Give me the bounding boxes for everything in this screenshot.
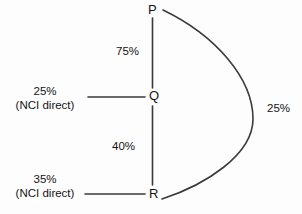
node-label-q: Q xyxy=(149,89,159,102)
inflow-label-q-percent: 25% xyxy=(12,84,78,98)
inflow-label-r-note: (NCI direct) xyxy=(12,186,78,200)
inflow-label-r: 35% (NCI direct) xyxy=(12,172,78,200)
edge-label-q-r: 40% xyxy=(112,139,135,153)
edge-curve-p-r xyxy=(162,10,253,199)
diagram-canvas: P Q R 75% 40% 25% 25% (NCI direct) 35% (… xyxy=(0,0,302,214)
node-label-p: P xyxy=(148,3,157,16)
inflow-label-r-percent: 35% xyxy=(12,172,78,186)
node-label-r: R xyxy=(149,187,158,200)
inflow-label-q-note: (NCI direct) xyxy=(12,98,78,112)
edge-label-p-q: 75% xyxy=(116,44,139,58)
inflow-label-q: 25% (NCI direct) xyxy=(12,84,78,112)
edge-label-p-r-curve: 25% xyxy=(267,101,290,115)
